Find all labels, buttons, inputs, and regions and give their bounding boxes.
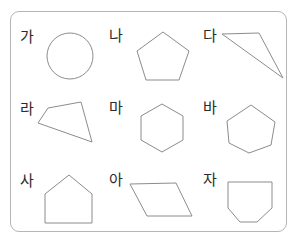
- shape-grid: 가 나 다 라 마: [0, 0, 299, 245]
- shape-cell-9[interactable]: 자: [0, 0, 90, 70]
- inverted-house-pentagon-shape: [0, 0, 299, 245]
- worksheet-canvas: 가 나 다 라 마: [0, 0, 299, 245]
